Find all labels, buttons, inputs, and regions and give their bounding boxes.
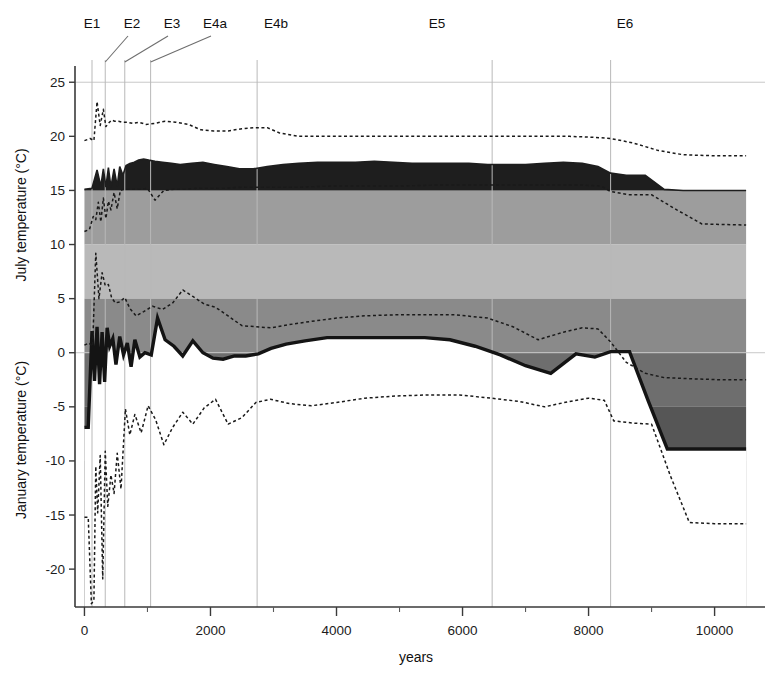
y-tick-label: -15 [45,508,65,523]
temperature-reconstruction-figure: 2520151050-5-10-15-200200040006000800010… [0,0,781,680]
y-tick-label: 15 [50,183,65,198]
zone-label-e4a: E4a [203,16,228,31]
y-tick-label: -5 [53,399,65,414]
y-tick-label: 0 [57,345,65,360]
zone-label-e1: E1 [84,16,101,31]
zone-label-e4b: E4b [264,16,288,31]
y-axis-title-july: July temperature (°C) [13,148,29,281]
chart-canvas: 2520151050-5-10-15-200200040006000800010… [0,0,781,680]
x-tick-label: 10000 [696,623,734,638]
zone-labels: E1E2E3E4aE4bE5E6 [84,16,634,62]
x-tick-label: 2000 [195,623,225,638]
zone-label-e3: E3 [164,16,181,31]
x-tick-label: 4000 [321,623,351,638]
zone-leader-line [105,36,128,62]
y-tick-label: 10 [50,237,65,252]
zone-leader-line [125,36,168,62]
y-tick-label: -10 [45,453,65,468]
zone-label-e2: E2 [124,16,141,31]
series-line-july-upper [84,102,746,156]
y-tick-label: 20 [50,129,65,144]
y-tick-label: -20 [45,562,65,577]
zone-label-e5: E5 [429,16,446,31]
y-axis-title-january: January temperature (°C) [13,361,29,519]
zone-label-e6: E6 [617,16,634,31]
x-tick-label: 0 [81,623,89,638]
x-tick-label: 6000 [448,623,478,638]
temperature-band [84,190,746,244]
x-axis-title: years [399,649,433,665]
y-tick-label: 5 [57,291,65,306]
y-tick-label: 25 [50,75,65,90]
x-tick-label: 8000 [574,623,604,638]
zone-leader-line [151,36,211,62]
